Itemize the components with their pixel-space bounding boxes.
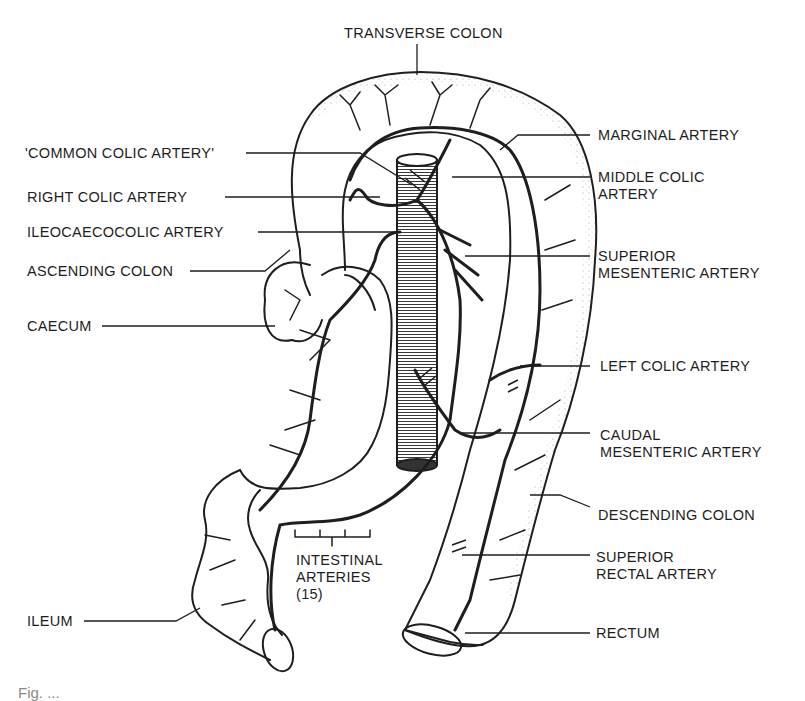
label-descending-colon: DESCENDING COLON [598,507,755,524]
ileum-end [257,625,298,676]
label-caudal-mesenteric-artery: CAUDAL MESENTERIC ARTERY [600,427,762,461]
label-right-colic-artery: RIGHT COLIC ARTERY [27,189,187,206]
label-transverse-colon: TRANSVERSE COLON [344,25,503,42]
label-rectum: RECTUM [596,625,660,642]
label-ascending-colon: ASCENDING COLON [27,263,173,280]
label-marginal-artery: MARGINAL ARTERY [598,127,739,144]
caecum-outline [264,262,322,341]
intestinal-arteries-bracket [295,530,370,546]
label-superior-rectal-artery: SUPERIOR RECTAL ARTERY [596,549,717,583]
label-ileum: ILEUM [27,613,73,630]
label-left-colic-artery: LEFT COLIC ARTERY [600,358,750,375]
figure-caption: Fig. ... [18,684,60,701]
label-superior-mesenteric-artery: SUPERIOR MESENTERIC ARTERY [598,248,760,282]
label-intestinal-arteries: INTESTINAL ARTERIES (15) [296,552,383,603]
label-ileocaecocolic-artery: ILEOCAECOCOLIC ARTERY [27,224,224,241]
label-middle-colic-artery: MIDDLE COLIC ARTERY [598,169,705,203]
label-caecum: CAECUM [27,318,92,335]
label-common-colic-artery: 'COMMON COLIC ARTERY' [25,145,214,162]
